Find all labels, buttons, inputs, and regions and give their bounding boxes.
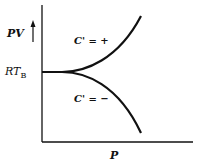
rt-text: RT bbox=[5, 65, 20, 78]
chart-plot bbox=[0, 0, 200, 167]
rt-tick-label: RTB bbox=[5, 65, 26, 80]
annotation-c-positive: C' = + bbox=[74, 35, 109, 46]
x-axis-label: P bbox=[110, 149, 118, 162]
annotation-c-negative: C' = − bbox=[74, 93, 109, 104]
rt-subscript: B bbox=[20, 71, 26, 80]
y-axis-label: PV bbox=[7, 27, 24, 40]
arrow-up-icon bbox=[31, 20, 36, 27]
